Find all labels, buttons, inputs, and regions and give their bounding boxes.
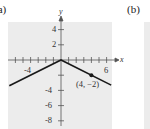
x-axis-label: x	[119, 55, 124, 64]
y-tick-label: 2	[52, 39, 56, 49]
point-label: (4, −2)	[76, 79, 99, 89]
y-tick-label: -4	[45, 85, 53, 95]
x-tick-label: -4	[24, 65, 32, 75]
point-marker	[89, 73, 93, 77]
plot-background-b	[144, 22, 150, 129]
y-tick-label: -8	[45, 115, 52, 125]
graph-panel-a: x y -4 6 4 2 -4 -6 -8 (4, −2)	[0, 0, 150, 129]
y-tick-label: -6	[45, 100, 52, 110]
x-tick-label: 6	[104, 65, 108, 75]
y-axis-label: y	[58, 7, 63, 16]
